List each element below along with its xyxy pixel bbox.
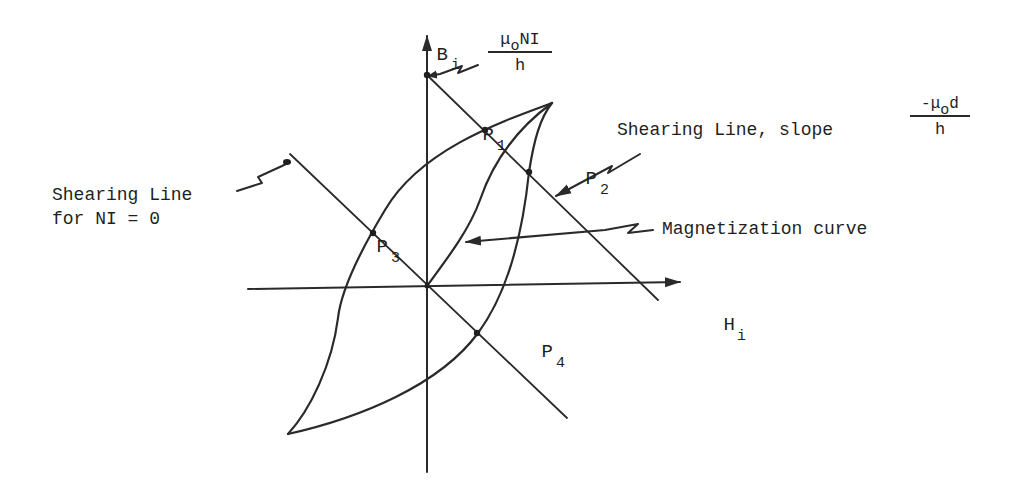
shearing-line-zero-label-line1: Shearing Line bbox=[52, 186, 192, 204]
shearing-line-label: Shearing Line, slope bbox=[617, 121, 833, 139]
intercept-numerator: μoNI bbox=[488, 30, 552, 53]
slope-fraction: -μod h bbox=[910, 95, 970, 139]
p3-letter: P bbox=[377, 236, 388, 258]
p3-subscript: 3 bbox=[391, 250, 400, 267]
p1-subscript: 1 bbox=[497, 138, 506, 155]
h-axis-label: Hi bbox=[678, 297, 744, 354]
origin-dot bbox=[425, 284, 430, 289]
neg-mu-symbol: -μ bbox=[921, 95, 940, 113]
slope-numerator: -μod bbox=[910, 95, 970, 117]
d-text: d bbox=[949, 95, 959, 113]
p2-letter: P bbox=[586, 168, 597, 190]
ni-text: NI bbox=[519, 30, 539, 49]
slope-denominator: h bbox=[910, 117, 970, 139]
p2-subscript: 2 bbox=[600, 182, 609, 199]
diagram-graphics bbox=[0, 0, 1015, 502]
hysteresis-diagram: Bi Hi μoNI h P1 P2 P3 P4 Shearing Line, … bbox=[0, 0, 1015, 502]
mu-subscript: o bbox=[510, 38, 519, 55]
p4-subscript: 4 bbox=[556, 355, 565, 372]
slope-mu-subscript: o bbox=[940, 102, 949, 119]
point-p4-dot bbox=[474, 330, 480, 336]
point-p4-label: P4 bbox=[496, 324, 562, 381]
shearing-line-zero-leader bbox=[237, 162, 290, 191]
magnetization-curve-leader bbox=[466, 224, 653, 242]
shearing-line-zero-end-dot bbox=[283, 159, 291, 165]
b-axis-subscript: i bbox=[451, 57, 460, 74]
b-axis-symbol: B bbox=[437, 44, 448, 66]
h-axis-symbol: H bbox=[724, 314, 735, 336]
shearing-line-zero-label-line2: for NI = 0 bbox=[52, 210, 160, 228]
h-axis bbox=[248, 282, 680, 289]
point-p3-label: P3 bbox=[331, 219, 397, 276]
p1-letter: P bbox=[483, 124, 494, 146]
mu-symbol: μ bbox=[500, 30, 510, 49]
magnetization-curve-label: Magnetization curve bbox=[662, 220, 867, 238]
intercept-denominator: h bbox=[488, 53, 552, 75]
intercept-fraction: μoNI h bbox=[488, 30, 552, 75]
point-p2-label: P2 bbox=[540, 151, 606, 208]
hysteresis-lower-branch bbox=[288, 103, 552, 434]
point-p2-dot bbox=[526, 169, 532, 175]
h-axis-subscript: i bbox=[737, 328, 746, 345]
p4-letter: P bbox=[542, 341, 553, 363]
b-axis-label: Bi bbox=[391, 27, 457, 84]
point-p1-label: P1 bbox=[437, 107, 503, 164]
